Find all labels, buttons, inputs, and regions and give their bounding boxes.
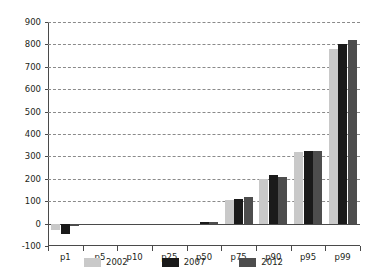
legend-label: 2007 — [184, 258, 206, 267]
legend-item[interactable]: 2012 — [239, 258, 283, 267]
bar — [244, 197, 253, 224]
y-axis-tick-label: 200 — [0, 175, 41, 184]
y-axis-tick-label: 800 — [0, 40, 41, 49]
x-axis-tick-mark — [325, 246, 326, 251]
bar — [338, 44, 347, 223]
y-axis-tick-label: 900 — [0, 18, 41, 27]
legend-item[interactable]: 2002 — [84, 258, 128, 267]
bar — [278, 177, 287, 224]
bar — [70, 224, 79, 226]
x-axis-tick-mark — [152, 246, 153, 251]
x-axis-tick-mark — [117, 246, 118, 251]
bar — [313, 151, 322, 224]
y-axis-tick-label: 500 — [0, 108, 41, 117]
legend-swatch-icon — [239, 258, 256, 267]
y-axis-tick-label: 400 — [0, 130, 41, 139]
bar — [269, 175, 278, 223]
x-axis-tick-mark — [83, 246, 84, 251]
legend-item[interactable]: 2007 — [162, 258, 206, 267]
x-axis-tick-mark — [256, 246, 257, 251]
bar — [348, 40, 357, 224]
bar — [234, 199, 243, 224]
bar — [200, 222, 209, 224]
x-axis-tick-mark — [48, 246, 49, 251]
y-axis-tick-label: 300 — [0, 152, 41, 161]
y-axis-tick-label: 100 — [0, 197, 41, 206]
bar — [51, 224, 60, 231]
bar-chart: -1000100200300400500600700800900 p1p5p10… — [0, 0, 367, 280]
bar — [304, 151, 313, 224]
chart-legend: 200220072012 — [0, 258, 367, 267]
y-axis-tick-label: -100 — [0, 242, 41, 251]
legend-swatch-icon — [84, 258, 101, 267]
legend-label: 2002 — [106, 258, 128, 267]
bars-layer — [48, 22, 360, 225]
legend-label: 2012 — [261, 258, 283, 267]
bar — [61, 224, 70, 234]
bar — [329, 49, 338, 224]
y-axis-tick-label: 600 — [0, 85, 41, 94]
bar — [259, 179, 268, 224]
y-axis-tick-label: 700 — [0, 63, 41, 72]
x-axis-tick-mark — [187, 246, 188, 251]
legend-swatch-icon — [162, 258, 179, 267]
x-axis-tick-mark — [291, 246, 292, 251]
bar — [225, 200, 234, 224]
bar — [294, 152, 303, 224]
x-axis-tick-mark — [360, 246, 361, 251]
bar — [209, 222, 218, 223]
y-axis-tick-label: 0 — [0, 220, 41, 229]
x-axis-tick-mark — [221, 246, 222, 251]
